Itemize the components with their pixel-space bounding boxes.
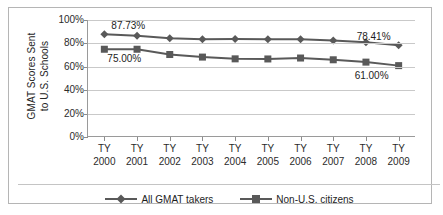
data-point-marker[interactable] bbox=[133, 32, 141, 40]
data-label: 78.41% bbox=[357, 31, 391, 42]
data-point-marker[interactable] bbox=[101, 46, 108, 53]
data-label: 61.00% bbox=[355, 70, 389, 81]
data-point-marker[interactable] bbox=[100, 30, 108, 38]
data-point-marker[interactable] bbox=[362, 59, 369, 66]
legend-label-all-gmat-takers: All GMAT takers bbox=[141, 194, 213, 205]
y-axis-tick-labels: 0%20%40%60%80%100% bbox=[44, 0, 84, 215]
y-axis-tick-label: 80% bbox=[48, 38, 84, 48]
data-point-marker[interactable] bbox=[395, 62, 402, 69]
data-label: 75.00% bbox=[107, 53, 141, 64]
gridline bbox=[88, 43, 415, 44]
y-axis-tickmark bbox=[84, 137, 88, 138]
data-point-marker[interactable] bbox=[198, 35, 206, 43]
data-point-marker[interactable] bbox=[166, 51, 173, 58]
y-axis-tick-label: 60% bbox=[48, 62, 84, 72]
y-axis-tick-label: 40% bbox=[48, 85, 84, 95]
legend-item-all-gmat-takers[interactable]: All GMAT takers bbox=[104, 193, 213, 205]
x-axis-tickmark bbox=[104, 137, 105, 141]
data-point-marker[interactable] bbox=[231, 35, 239, 43]
x-axis-tickmark bbox=[268, 137, 269, 141]
data-point-marker[interactable] bbox=[264, 35, 272, 43]
legend-label-non-us-citizens: Non-U.S. citizens bbox=[276, 194, 353, 205]
data-point-marker[interactable] bbox=[166, 34, 174, 42]
x-axis-tickmark bbox=[202, 137, 203, 141]
gridline bbox=[88, 90, 415, 91]
gridline bbox=[88, 67, 415, 68]
data-point-marker[interactable] bbox=[330, 56, 337, 63]
x-axis-tickmark bbox=[170, 137, 171, 141]
x-axis-tickmark bbox=[137, 137, 138, 141]
diamond-marker-icon bbox=[104, 193, 138, 205]
legend-item-non-us-citizens[interactable]: Non-U.S. citizens bbox=[239, 193, 353, 205]
y-axis-tick-label: 0% bbox=[48, 132, 84, 142]
data-point-marker[interactable] bbox=[199, 54, 206, 61]
data-point-marker[interactable] bbox=[297, 55, 304, 62]
data-point-marker[interactable] bbox=[264, 55, 271, 62]
y-axis-tick-label: 20% bbox=[48, 109, 84, 119]
x-axis-tickmark bbox=[235, 137, 236, 141]
data-point-marker[interactable] bbox=[232, 55, 239, 62]
x-axis-tick-label: TY2009 bbox=[379, 142, 419, 168]
x-axis-tickmark bbox=[301, 137, 302, 141]
x-axis-tickmark bbox=[366, 137, 367, 141]
data-label: 87.73% bbox=[111, 20, 145, 31]
y-axis-tick-label: 100% bbox=[48, 15, 84, 25]
x-axis-tickmark bbox=[333, 137, 334, 141]
series-line-1 bbox=[104, 49, 398, 65]
gridline bbox=[88, 114, 415, 115]
x-axis-tick-labels: TY2000TY2001TY2002TY2003TY2004TY2005TY20… bbox=[88, 142, 415, 176]
x-axis-tickmark bbox=[399, 137, 400, 141]
data-point-marker[interactable] bbox=[134, 46, 141, 53]
data-point-marker[interactable] bbox=[297, 35, 305, 43]
square-marker-icon bbox=[239, 193, 273, 205]
